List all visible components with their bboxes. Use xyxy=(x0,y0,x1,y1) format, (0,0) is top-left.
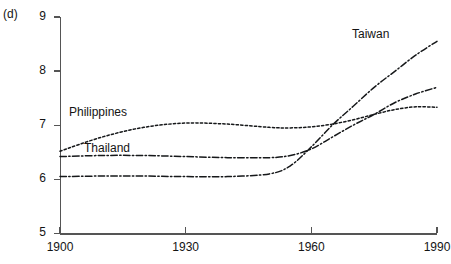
series-label-philippines: Philippines xyxy=(69,105,127,119)
chart-container: (d) 98765 1900193019601990 Philippines T… xyxy=(0,0,451,264)
series-label-taiwan: Taiwan xyxy=(352,27,389,41)
series-label-thailand: Thailand xyxy=(84,141,130,155)
